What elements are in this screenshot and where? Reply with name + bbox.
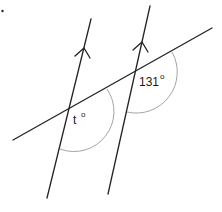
stray-dot <box>1 10 3 12</box>
angle-131-label: 131 <box>139 75 159 89</box>
angle-t-label: t <box>73 113 77 127</box>
geometry-diagram: t o 131 o <box>0 0 222 212</box>
angle-t-degree: o <box>81 110 86 119</box>
angle-131-degree: o <box>160 72 165 81</box>
right-parallel-line <box>108 6 150 194</box>
